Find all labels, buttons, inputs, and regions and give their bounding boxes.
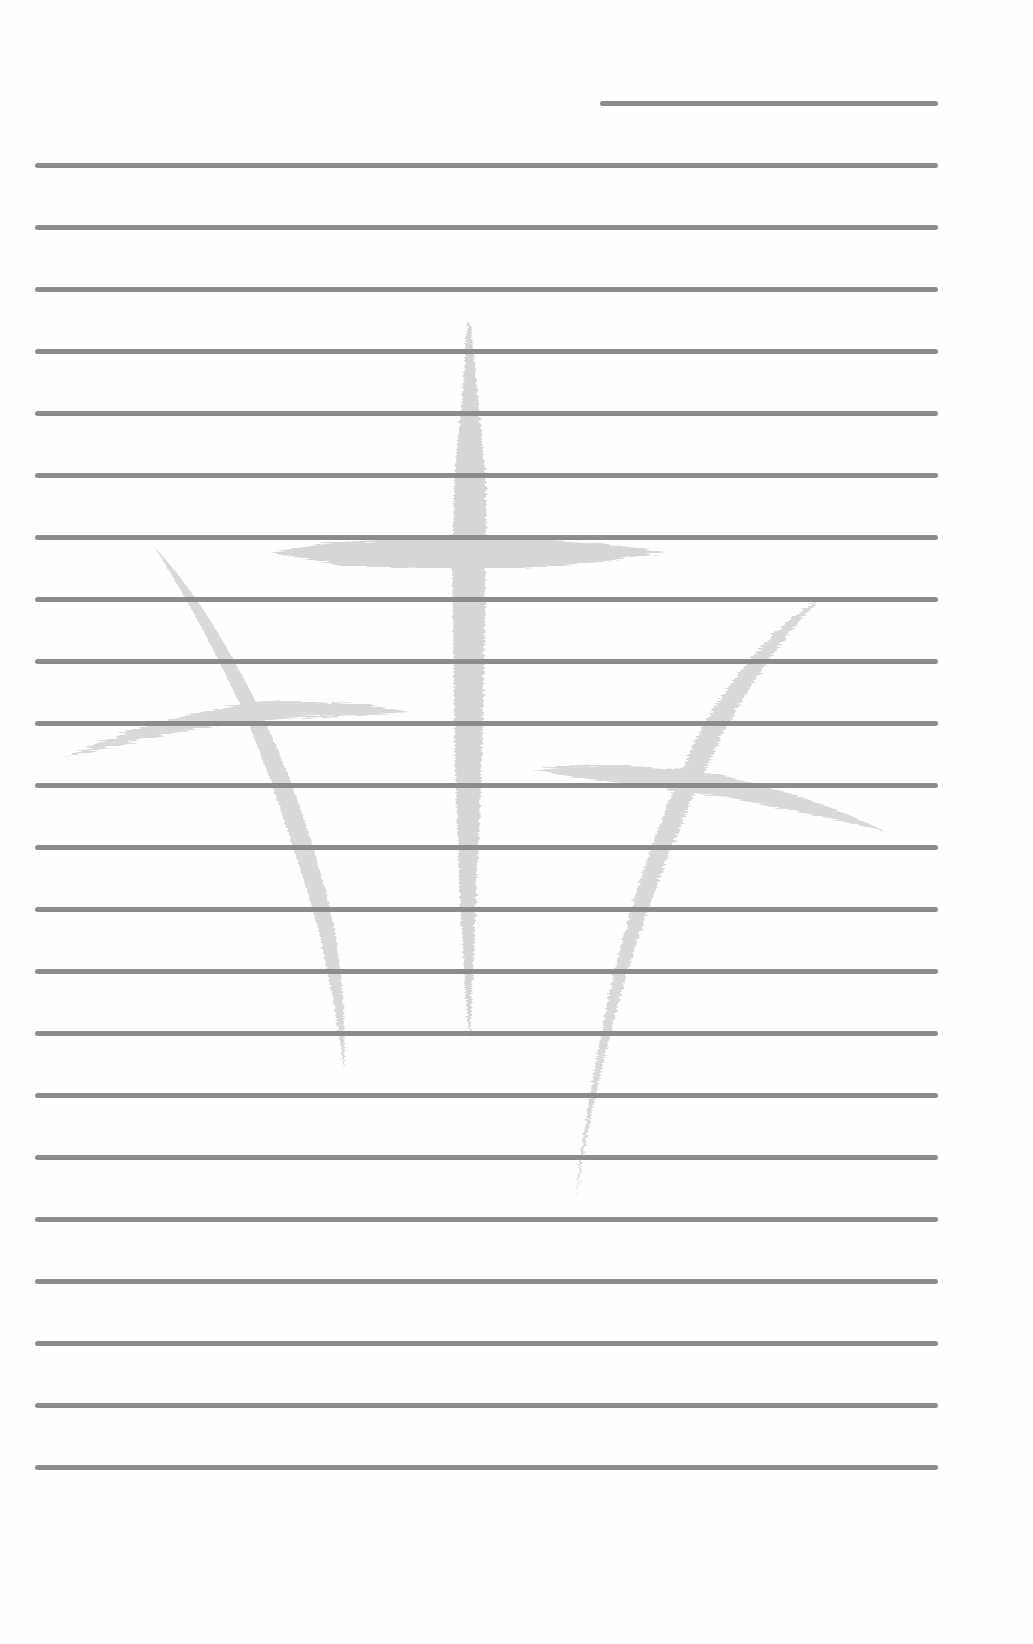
ruled-line — [35, 1093, 938, 1098]
ruled-line — [35, 845, 938, 850]
lined-paper-page — [0, 0, 1033, 1644]
ruled-line — [35, 1155, 938, 1160]
ruled-line — [35, 411, 938, 416]
right-cross-icon — [530, 598, 885, 1200]
ruled-line — [35, 1279, 938, 1284]
ruled-line — [35, 783, 938, 788]
ruled-line — [35, 1465, 938, 1470]
ruled-line — [35, 1341, 938, 1346]
ruled-line — [35, 597, 938, 602]
ruled-line — [35, 1217, 938, 1222]
ruled-line — [35, 659, 938, 664]
ruled-line — [35, 473, 938, 478]
ruled-line — [35, 969, 938, 974]
ruled-line — [35, 349, 938, 354]
ruled-line — [35, 907, 938, 912]
ruled-line — [35, 287, 938, 292]
left-cross-icon — [65, 548, 410, 1070]
ruled-line — [35, 1403, 938, 1408]
ruled-line — [35, 225, 938, 230]
ruled-line — [35, 1031, 938, 1036]
ruled-line — [35, 535, 938, 540]
three-crosses-icon — [0, 0, 1033, 1644]
ruled-line — [35, 163, 938, 168]
ruled-line — [35, 721, 938, 726]
title-line — [600, 101, 938, 106]
